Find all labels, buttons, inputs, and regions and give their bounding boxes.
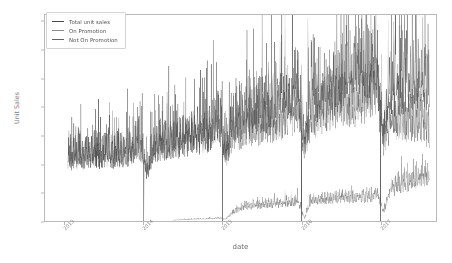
- legend-label: Not On Promotion: [69, 37, 118, 43]
- legend-line-icon: [52, 30, 64, 31]
- chart-legend: Total unit sales On Promotion Not On Pro…: [46, 12, 126, 49]
- legend-item: Total unit sales: [52, 17, 118, 26]
- legend-label: On Promotion: [69, 28, 106, 34]
- legend-item: On Promotion: [52, 26, 118, 35]
- y-axis-label: Unit Sales: [13, 68, 21, 148]
- legend-label: Total unit sales: [69, 19, 110, 25]
- x-axis-label: date: [44, 243, 437, 251]
- chart-figure: Unit Sales 14000001200000100000080000060…: [0, 0, 452, 263]
- legend-line-icon: [52, 21, 64, 22]
- legend-line-icon: [52, 39, 64, 40]
- legend-item: Not On Promotion: [52, 35, 118, 44]
